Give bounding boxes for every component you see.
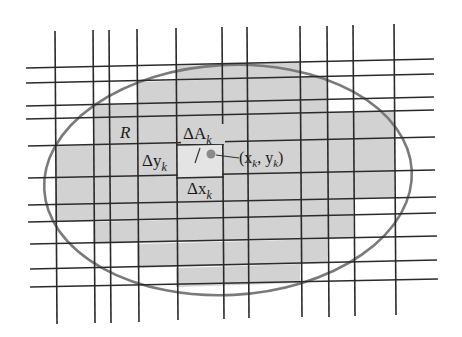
sample-point	[207, 150, 216, 159]
riemann-partition-diagram: R ΔAk Δyk Δxk (xk, yk)	[0, 0, 462, 337]
region-label: R	[119, 123, 131, 142]
